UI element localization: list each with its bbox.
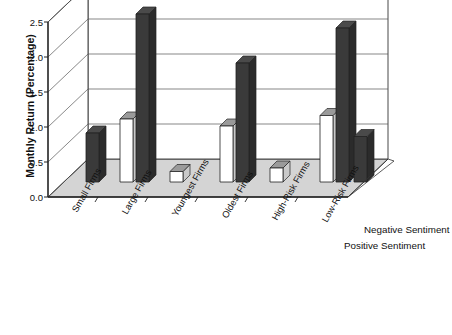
bar-positive-1-face	[120, 119, 133, 182]
x-axis-tick	[95, 197, 98, 202]
bar-negative-5-face	[336, 28, 349, 182]
plot-area	[0, 0, 452, 335]
bar-negative-3-face	[236, 63, 249, 182]
bar-chart: Monthly Return (Percentage) 0.00.51.01.5…	[0, 0, 452, 335]
x-axis-tick	[245, 197, 248, 202]
bar-positive-4-face	[270, 168, 283, 182]
x-axis-tick	[295, 197, 298, 202]
bar-extra-side	[367, 130, 374, 183]
bar-positive-3-face	[220, 126, 233, 182]
bar-positive-2-face	[170, 172, 183, 183]
x-axis-tick	[195, 197, 198, 202]
bar-negative-1-face	[136, 14, 149, 182]
legend-label-positive-sentiment: Positive Sentiment	[344, 240, 425, 251]
x-axis-tick	[145, 197, 148, 202]
bar-negative-1-side	[149, 7, 156, 182]
bar-positive-5-face	[320, 116, 333, 183]
legend-label-negative-sentiment: Negative Sentiment	[364, 224, 450, 235]
bar-negative-3-side	[249, 56, 256, 182]
